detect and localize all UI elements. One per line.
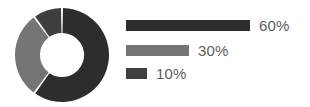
legend-label-1: 30% xyxy=(198,43,229,58)
donut-slice-group xyxy=(15,8,109,102)
donut-chart xyxy=(14,7,110,103)
legend-item-2[interactable]: 10% xyxy=(126,64,187,82)
legend-label-0: 60% xyxy=(259,18,290,33)
legend-swatch-bar-2 xyxy=(126,68,147,79)
donut-svg xyxy=(14,7,110,103)
legend-swatch-bar-1 xyxy=(126,45,189,56)
donut-slice-1[interactable] xyxy=(15,18,49,93)
legend-label-2: 10% xyxy=(156,66,187,81)
donut-chart-figure: 60% 30% 10% xyxy=(0,0,310,107)
legend-item-0[interactable]: 60% xyxy=(126,16,290,34)
legend-item-1[interactable]: 30% xyxy=(126,41,229,59)
legend-swatch-bar-0 xyxy=(126,20,250,31)
chart-legend: 60% 30% 10% xyxy=(126,14,310,94)
